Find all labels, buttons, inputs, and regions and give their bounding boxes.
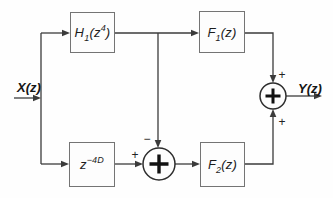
block-f1: F1(z): [199, 11, 245, 53]
subtractor-left-sign: +: [129, 149, 141, 161]
f1-pre: F: [207, 25, 215, 40]
f2-pre: F: [208, 157, 216, 172]
arrowhead-subtractor-top: [155, 140, 162, 148]
arrowhead-to-f2: [192, 161, 200, 168]
block-h1-label: H1(z4): [75, 25, 111, 40]
block-diagram: H1(z4) F1(z) z−4D F2(z) X(z) Y(z) − + + …: [0, 0, 333, 198]
delay-pre: z: [80, 157, 87, 172]
wire-f1-to-adder: [245, 33, 273, 76]
block-delay-label: z−4D: [80, 157, 104, 172]
arrowhead-to-delay: [61, 161, 69, 168]
adder-bottom-sign: +: [276, 116, 288, 128]
f2-mid: (z): [221, 157, 237, 172]
input-signal-label: X(z): [11, 80, 47, 95]
arrowhead-input: [33, 95, 41, 102]
f1-mid: (z): [221, 25, 237, 40]
delay-sup: −4D: [87, 155, 104, 165]
block-f2-label: F2(z): [208, 157, 237, 172]
h1-mid: (z: [89, 25, 100, 40]
diagram-canvas: [0, 0, 333, 198]
adder-top-sign: +: [276, 69, 288, 81]
subtractor-top-sign: −: [141, 133, 153, 145]
block-h1: H1(z4): [70, 12, 115, 53]
block-f1-label: F1(z): [207, 25, 236, 40]
wire-f2-to-adder: [245, 116, 273, 164]
output-signal-label: Y(z): [292, 81, 328, 96]
h1-post: ): [106, 25, 111, 40]
block-delay: z−4D: [69, 142, 115, 187]
arrowhead-to-h1: [62, 30, 70, 37]
h1-pre: H: [75, 25, 85, 40]
arrowhead-to-f1: [191, 30, 199, 37]
block-f2: F2(z): [200, 142, 245, 187]
